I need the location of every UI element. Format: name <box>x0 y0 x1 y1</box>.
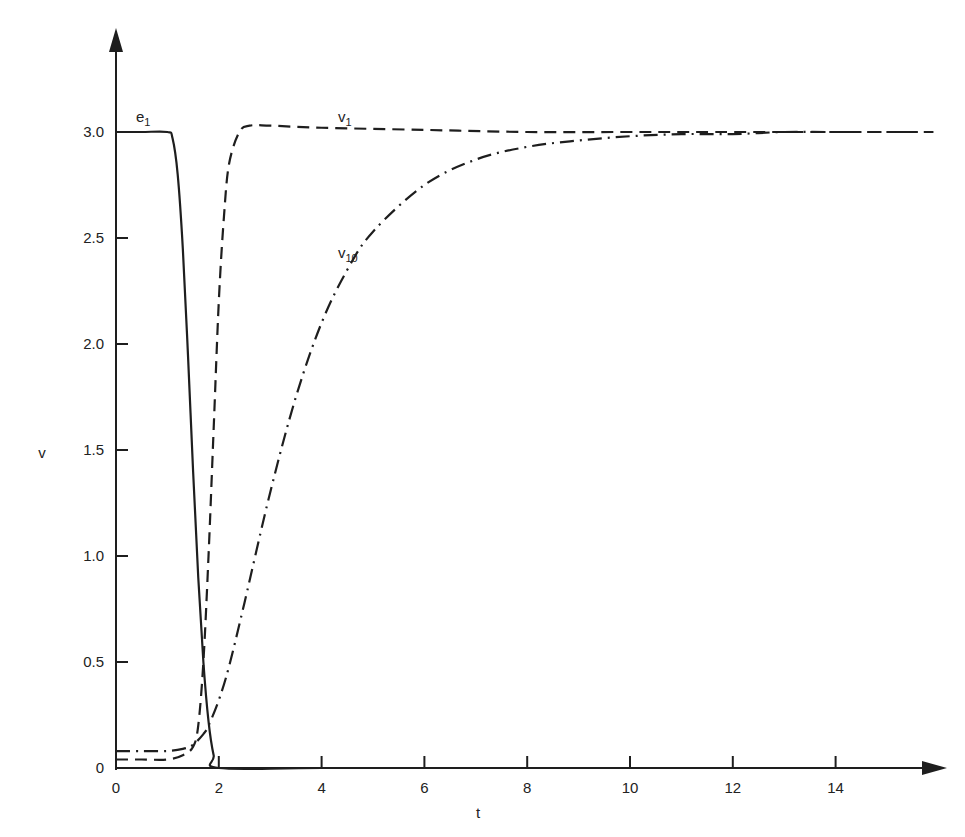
x-tick-label: 0 <box>112 779 120 796</box>
y-tick-label: 1.0 <box>83 547 104 564</box>
series-v1 <box>116 125 933 760</box>
x-tick-label: 8 <box>523 779 531 796</box>
series <box>116 125 933 769</box>
y-tick-label: 0 <box>96 759 104 776</box>
line-chart: 02468101214 00.51.01.52.02.53.0 t v e1 v… <box>0 0 965 837</box>
x-tick-label: 4 <box>317 779 325 796</box>
label-v10: v10 <box>338 244 358 264</box>
y-tick-label: 2.0 <box>83 335 104 352</box>
y-axis-title: v <box>38 444 46 461</box>
y-tick-label: 0.5 <box>83 653 104 670</box>
y-tick-label: 1.5 <box>83 441 104 458</box>
x-tick-label: 6 <box>420 779 428 796</box>
x-tick-label: 12 <box>724 779 741 796</box>
y-axis-arrow-icon <box>109 28 123 52</box>
series-e1 <box>116 132 933 769</box>
y-ticks: 00.51.01.52.02.53.0 <box>83 123 128 776</box>
x-tick-label: 14 <box>827 779 844 796</box>
x-axis-title: t <box>476 804 481 821</box>
x-tick-label: 10 <box>622 779 639 796</box>
label-e1: e1 <box>136 108 150 128</box>
label-v1: v1 <box>338 108 352 128</box>
y-tick-label: 3.0 <box>83 123 104 140</box>
x-ticks: 02468101214 <box>112 756 844 796</box>
y-tick-label: 2.5 <box>83 229 104 246</box>
series-v10 <box>116 132 933 751</box>
x-tick-label: 2 <box>215 779 223 796</box>
